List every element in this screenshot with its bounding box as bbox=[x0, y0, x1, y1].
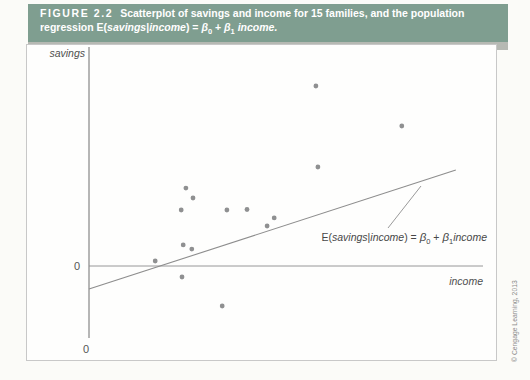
data-point bbox=[179, 208, 184, 213]
data-point bbox=[184, 186, 189, 191]
data-point bbox=[245, 207, 250, 212]
data-point bbox=[225, 208, 230, 213]
copyright-credit: © Cengage Learning, 2013 bbox=[511, 280, 519, 362]
x-axis-label: income bbox=[449, 275, 483, 287]
data-point bbox=[265, 224, 270, 229]
data-point bbox=[191, 196, 196, 201]
data-point bbox=[399, 124, 404, 129]
data-point bbox=[153, 259, 158, 264]
y-axis-label: savings bbox=[49, 47, 85, 59]
data-point bbox=[314, 84, 319, 89]
plot-frame bbox=[27, 45, 497, 361]
data-point bbox=[220, 304, 225, 309]
data-point bbox=[180, 275, 185, 280]
x-origin-label: 0 bbox=[83, 343, 89, 355]
scatterplot: savings 0 income 0 E(savings|income) = β… bbox=[0, 0, 530, 380]
data-point bbox=[181, 243, 186, 248]
y-zero-label: 0 bbox=[74, 260, 80, 272]
data-point bbox=[316, 165, 321, 170]
data-point bbox=[189, 247, 194, 252]
data-point bbox=[272, 216, 277, 221]
